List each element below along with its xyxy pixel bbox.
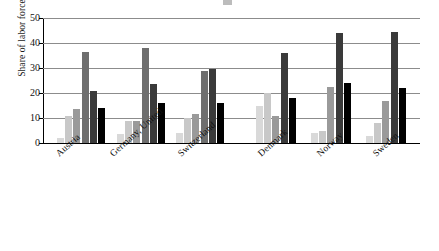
bar <box>98 108 105 143</box>
bar <box>366 136 373 144</box>
bar <box>391 32 398 143</box>
cropped-legend-artifact <box>223 0 232 5</box>
bar-group <box>57 18 106 143</box>
bar <box>344 83 351 143</box>
bar <box>374 123 381 143</box>
bar <box>289 98 296 143</box>
bar <box>90 91 97 144</box>
y-axis-line <box>43 18 44 144</box>
bar <box>217 103 224 143</box>
x-axis-line <box>43 143 420 144</box>
bar-chart: Share of labor force 01020304050 Austria… <box>0 0 439 251</box>
bar-group <box>176 18 225 143</box>
bar <box>264 93 271 143</box>
bar-group <box>311 18 352 143</box>
bar-group <box>366 18 407 143</box>
bar <box>336 33 343 143</box>
y-axis-tick-mark <box>39 118 43 119</box>
bar <box>256 106 263 144</box>
y-axis-tick-label: 40 <box>18 38 40 48</box>
x-axis-category-labels: AustriaGermany, UnitedSwitzerlandDenmark… <box>0 147 439 251</box>
y-axis-tick-mark <box>39 68 43 69</box>
y-axis-tick-label: 20 <box>18 88 40 98</box>
y-axis-tick-mark <box>39 93 43 94</box>
y-axis-tick-mark <box>39 18 43 19</box>
bar <box>82 52 89 143</box>
y-axis-tick-label: 10 <box>18 113 40 123</box>
bar <box>311 133 318 143</box>
plot-area <box>43 18 420 143</box>
y-axis-tick-label: 30 <box>18 63 40 73</box>
bar <box>176 133 183 143</box>
y-axis-tick-mark <box>39 43 43 44</box>
bar <box>399 88 406 143</box>
bar-group <box>256 18 297 143</box>
y-axis-tick-label: 50 <box>18 13 40 23</box>
y-axis-tick-mark <box>39 143 43 144</box>
